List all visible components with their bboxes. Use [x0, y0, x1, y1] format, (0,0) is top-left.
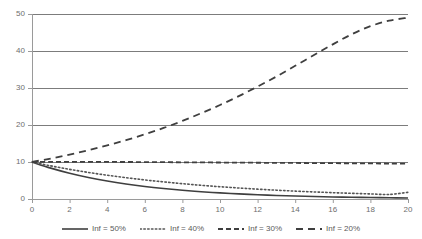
legend-label-0: Inf = 50% — [92, 225, 126, 233]
legend-swatch-longdash-icon — [296, 225, 322, 233]
series-line-3 — [32, 18, 408, 162]
y-tick-label-50: 50 — [3, 10, 25, 18]
legend-item-3[interactable]: Inf = 20% — [296, 225, 360, 233]
x-tick-label-16: 16 — [323, 206, 343, 214]
legend-item-1[interactable]: Inf = 40% — [140, 225, 204, 233]
legend-item-2[interactable]: Inf = 30% — [218, 225, 282, 233]
x-tick-label-2: 2 — [60, 206, 80, 214]
data-series-group — [32, 18, 408, 198]
legend-swatch-dashed-icon — [218, 225, 244, 233]
legend-swatch-solid-icon — [62, 225, 88, 233]
x-tick-label-6: 6 — [135, 206, 155, 214]
line-chart: 01020304050 02468101214161820 Inf = 50%I… — [0, 0, 422, 239]
y-tick-label-30: 30 — [3, 84, 25, 92]
y-tick-label-40: 40 — [3, 47, 25, 55]
chart-plot-area — [0, 0, 422, 239]
y-tick-marks-group — [28, 15, 32, 200]
axis-lines-group — [32, 14, 408, 200]
legend-item-0[interactable]: Inf = 50% — [62, 225, 126, 233]
legend-label-1: Inf = 40% — [170, 225, 204, 233]
y-tick-label-20: 20 — [3, 121, 25, 129]
chart-legend: Inf = 50%Inf = 40%Inf = 30%Inf = 20% — [0, 221, 422, 237]
x-tick-label-8: 8 — [172, 206, 192, 214]
x-tick-label-14: 14 — [285, 206, 305, 214]
y-tick-label-0: 0 — [3, 195, 25, 203]
legend-label-3: Inf = 20% — [326, 225, 360, 233]
gridlines-group — [32, 15, 408, 163]
legend-label-2: Inf = 30% — [248, 225, 282, 233]
x-tick-label-12: 12 — [248, 206, 268, 214]
x-tick-label-0: 0 — [22, 206, 42, 214]
y-tick-label-10: 10 — [3, 158, 25, 166]
x-tick-label-20: 20 — [398, 206, 418, 214]
series-line-0 — [32, 162, 408, 198]
legend-swatch-dotted-icon — [140, 225, 166, 233]
x-tick-label-10: 10 — [210, 206, 230, 214]
x-tick-label-4: 4 — [97, 206, 117, 214]
x-tick-label-18: 18 — [360, 206, 380, 214]
